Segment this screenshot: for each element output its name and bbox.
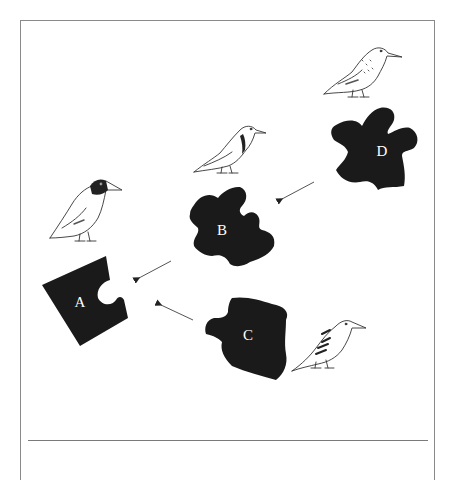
bird-a-icon xyxy=(50,180,122,241)
piece-label-a: A xyxy=(75,294,86,310)
piece-label-c: C xyxy=(243,327,253,343)
bird-c-icon xyxy=(292,321,366,371)
arrow-d-to-b xyxy=(282,182,314,199)
puzzle-piece-d: D xyxy=(331,108,417,190)
bird-d-icon xyxy=(324,48,402,97)
piece-label-b: B xyxy=(217,222,227,238)
puzzle-piece-b: B xyxy=(190,187,275,266)
arrow-b-to-a xyxy=(139,261,171,278)
piece-label-d: D xyxy=(377,143,388,159)
arrow-c-to-a xyxy=(161,305,193,320)
bird-b-icon xyxy=(194,126,266,173)
puzzle-piece-c: C xyxy=(205,297,287,380)
puzzle-piece-a: A xyxy=(42,256,128,346)
